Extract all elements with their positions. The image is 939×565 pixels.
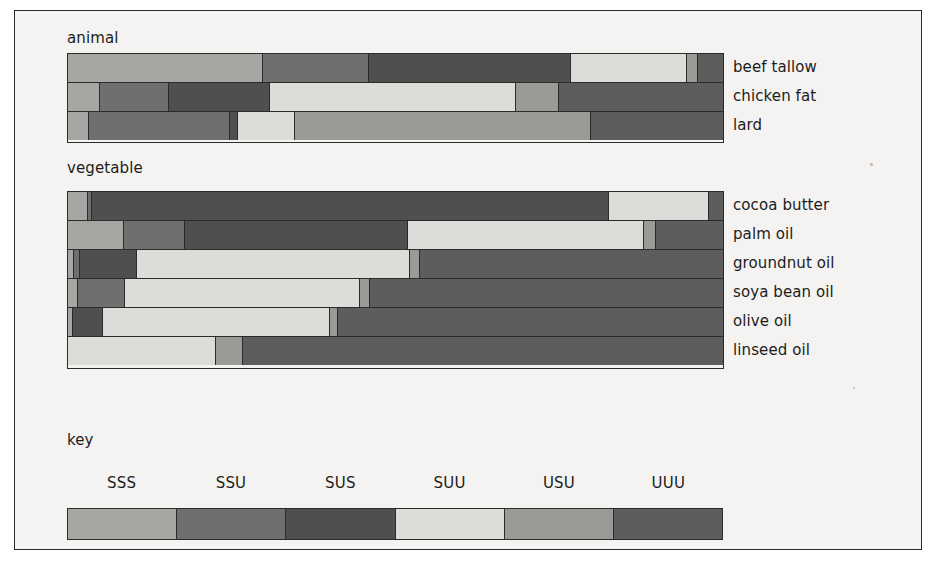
legend-label-uuu: UUU	[614, 474, 723, 496]
bar-segment-ssu	[89, 112, 230, 140]
bar-segment-sus	[169, 83, 271, 111]
category-label-olive-oil: olive oil	[733, 312, 792, 330]
bar-segment-suu	[125, 279, 360, 307]
category-label-soya-bean-oil: soya bean oil	[733, 283, 834, 301]
bar-segment-suu	[571, 54, 687, 82]
legend-labels: SSSSSUSUSSUUUSUUUU	[67, 474, 723, 496]
legend-label-sus: SUS	[286, 474, 395, 496]
legend-swatch-suu	[396, 509, 505, 539]
bar-segment-suu	[408, 221, 644, 249]
legend-label-sss: SSS	[67, 474, 176, 496]
bar-segment-usu	[410, 250, 420, 278]
legend-swatch-sss	[68, 509, 177, 539]
legend-swatch-strip	[67, 508, 723, 540]
bar-segment-sss	[68, 279, 78, 307]
bar-segment-usu	[216, 337, 243, 365]
bar-segment-uuu	[243, 337, 723, 365]
legend-label-usu: USU	[504, 474, 613, 496]
bar-segment-sss	[68, 221, 124, 249]
bar-row	[68, 279, 723, 307]
bar-segment-sus	[80, 250, 137, 278]
bar-segment-suu	[238, 112, 295, 140]
legend-swatch-uuu	[614, 509, 722, 539]
group-title-vegetable: vegetable	[67, 159, 143, 177]
bar-row	[68, 54, 723, 82]
bar-segment-uuu	[709, 192, 723, 220]
animal-bar-group	[67, 53, 724, 143]
bar-segment-usu	[360, 279, 370, 307]
legend-swatch-ssu	[177, 509, 286, 539]
bar-segment-usu	[644, 221, 656, 249]
bar-segment-suu	[137, 250, 410, 278]
bar-segment-uuu	[656, 221, 723, 249]
bar-row	[68, 308, 723, 336]
bar-segment-usu	[516, 83, 559, 111]
bar-segment-sus	[92, 192, 609, 220]
category-label-chicken-fat: chicken fat	[733, 87, 816, 105]
bar-row	[68, 112, 723, 140]
chart-figure: animal vegetable key SSSSSUSUSSUUUSUUUU …	[14, 10, 922, 550]
bar-row	[68, 337, 723, 365]
key-title: key	[67, 431, 93, 449]
bar-row	[68, 192, 723, 220]
bar-row	[68, 250, 723, 278]
bar-segment-usu	[295, 112, 592, 140]
group-title-animal: animal	[67, 29, 118, 47]
bar-segment-sss	[68, 54, 263, 82]
bar-segment-sss	[68, 192, 88, 220]
bar-segment-ssu	[124, 221, 184, 249]
legend-label-suu: SUU	[395, 474, 504, 496]
bar-segment-sus	[369, 54, 571, 82]
bar-segment-sus	[73, 308, 102, 336]
bar-segment-ssu	[100, 83, 169, 111]
bar-segment-uuu	[591, 112, 723, 140]
bar-segment-suu	[68, 337, 216, 365]
paper-speck	[870, 163, 873, 166]
bar-segment-suu	[609, 192, 709, 220]
bar-segment-sus	[230, 112, 237, 140]
bar-row	[68, 83, 723, 111]
bar-segment-usu	[687, 54, 698, 82]
category-label-cocoa-butter: cocoa butter	[733, 196, 829, 214]
bar-segment-sss	[68, 112, 89, 140]
category-label-beef-tallow: beef tallow	[733, 58, 817, 76]
bar-row	[68, 221, 723, 249]
bar-segment-uuu	[698, 54, 723, 82]
bar-segment-suu	[103, 308, 330, 336]
bar-segment-uuu	[559, 83, 723, 111]
legend-swatch-sus	[286, 509, 395, 539]
vegetable-bar-group	[67, 191, 724, 369]
bar-segment-ssu	[78, 279, 125, 307]
category-label-linseed-oil: linseed oil	[733, 341, 810, 359]
category-label-palm-oil: palm oil	[733, 225, 794, 243]
bar-segment-usu	[330, 308, 338, 336]
bar-segment-sss	[68, 83, 100, 111]
bar-segment-uuu	[370, 279, 723, 307]
category-label-lard: lard	[733, 116, 762, 134]
legend-label-ssu: SSU	[176, 474, 285, 496]
bar-segment-uuu	[420, 250, 723, 278]
bar-segment-suu	[270, 83, 516, 111]
paper-speck	[853, 387, 855, 389]
legend-swatch-usu	[505, 509, 614, 539]
bar-segment-ssu	[263, 54, 369, 82]
bar-segment-uuu	[338, 308, 723, 336]
category-label-groundnut-oil: groundnut oil	[733, 254, 835, 272]
bar-segment-sus	[185, 221, 408, 249]
